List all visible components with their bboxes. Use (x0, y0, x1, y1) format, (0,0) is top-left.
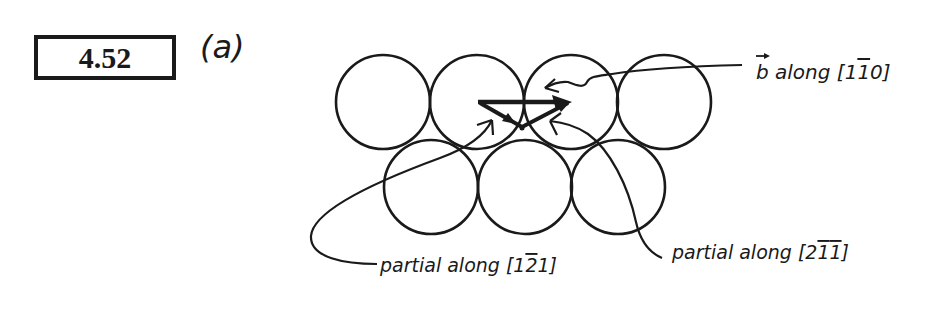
burgers-leader-line (545, 65, 742, 92)
partial-left-leader-line (311, 120, 493, 264)
svg-text:partial along [121]: partial along [121] (379, 254, 557, 276)
partial-right-label: partial along [211] (671, 241, 849, 263)
vector-arrowhead-icon (764, 53, 770, 59)
burgers-label: b along [110] (756, 53, 891, 84)
burgers-label-end: 0] (870, 60, 891, 84)
vertex-dot (520, 126, 525, 131)
atom-bottom-2 (478, 140, 572, 234)
atom-bottom-1 (384, 140, 478, 234)
partial-right-label-end: ] (841, 241, 849, 263)
atom-circles (336, 55, 711, 234)
partial-left-label: partial along [121] (379, 254, 557, 276)
partial-right-label-bar-index-2: 1 (830, 241, 842, 263)
close-packed-plane-diagram: b along [110] partial along [121] partia… (0, 0, 951, 313)
atom-bottom-3 (571, 140, 665, 234)
svg-text:b along [110]: b along [110] (756, 60, 891, 84)
partial-right-label-bar-index-1: 1 (817, 241, 829, 263)
svg-text:partial along [211]: partial along [211] (671, 241, 849, 263)
partial-left-label-end: 1] (538, 254, 558, 276)
burgers-label-text: along [1 (769, 60, 858, 84)
partial-left-label-bar-index: 2 (525, 254, 537, 276)
partial-right-label-text: partial along [2 (671, 241, 817, 263)
partial-left-label-text: partial along [1 (379, 254, 525, 276)
partial-vector-1-arrow (480, 103, 522, 127)
burgers-label-bar-index: 1 (857, 60, 870, 84)
atom-top-1 (336, 55, 430, 149)
burgers-label-b: b (756, 60, 769, 84)
